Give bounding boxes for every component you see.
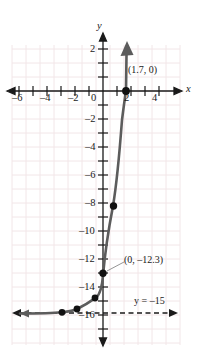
y-tick-label--6: –6 [85, 170, 96, 181]
y-tick-label--2: –2 [85, 114, 96, 125]
x-tick-label--2: –2 [68, 93, 79, 104]
x-intercept-annotation: (1.7, 0) [128, 65, 157, 75]
data-point-y-intercept [99, 270, 106, 277]
data-point [110, 202, 117, 209]
y-axis-arrow-up [100, 33, 107, 41]
asymptote-annotation: y = –15 [134, 296, 165, 306]
x-tick-label-0: 0 [91, 93, 96, 104]
data-point [59, 309, 66, 316]
y-tick-label--14: –14 [79, 282, 95, 293]
x-tick-label-4: 4 [152, 93, 157, 104]
y-tick-label--16: –16 [79, 310, 95, 321]
y-tick-label--4: –4 [85, 142, 96, 153]
x-axis-arrow-right [174, 88, 182, 95]
y-tick-label--12: –12 [79, 254, 95, 265]
y-intercept-annotation: (0, –12.3) [124, 255, 163, 265]
y-tick-label--8: –8 [85, 198, 96, 209]
y-tick-label-2: 2 [90, 44, 95, 55]
data-point [92, 295, 99, 302]
y-axis-arrow-down [100, 338, 107, 346]
x-tick-label--6: –6 [12, 93, 23, 104]
x-tick-label-2: 2 [124, 93, 129, 104]
x-tick-label--4: –4 [40, 93, 51, 104]
y-axis-label: y [97, 21, 102, 32]
graph-canvas [0, 0, 206, 360]
exponential-curve [20, 41, 134, 318]
x-axis-label: x [186, 84, 191, 95]
graph-figure: y x –6 –4 –2 0 2 4 2 –2 –4 –6 –8 –10 –12… [0, 0, 206, 360]
y-tick-label--10: –10 [79, 226, 95, 237]
